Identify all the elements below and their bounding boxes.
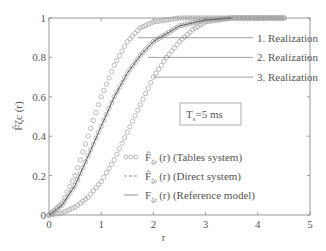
data-marker-circle bbox=[99, 95, 103, 99]
data-marker-circle bbox=[138, 102, 142, 106]
data-marker-circle bbox=[115, 152, 119, 156]
data-marker-circle bbox=[94, 110, 98, 114]
data-marker-circle bbox=[96, 102, 100, 106]
legend-item: Fζc(r) (Reference model) bbox=[124, 189, 255, 204]
data-marker-circle bbox=[68, 184, 72, 188]
x-tick-label: 1 bbox=[98, 218, 104, 230]
realization-label: 1. Realization bbox=[257, 32, 319, 44]
data-marker-circle bbox=[104, 171, 108, 175]
data-marker-circle bbox=[146, 86, 150, 90]
y-tick-label: 0.4 bbox=[32, 130, 46, 142]
data-marker-circle bbox=[107, 76, 111, 80]
data-marker-circle bbox=[143, 91, 147, 95]
data-marker-circle bbox=[141, 97, 145, 101]
y-tick-label: 0 bbox=[41, 209, 47, 221]
data-marker-circle bbox=[143, 23, 147, 27]
data-marker-circle bbox=[136, 28, 140, 32]
data-marker-circle bbox=[138, 26, 142, 30]
data-marker-circle bbox=[81, 150, 85, 154]
data-marker-circle bbox=[107, 166, 111, 170]
data-marker-circle bbox=[112, 158, 116, 162]
x-tick-label: 4 bbox=[255, 218, 261, 230]
data-marker-circle bbox=[120, 49, 124, 53]
data-marker-circle bbox=[104, 82, 108, 86]
data-marker-circle bbox=[70, 206, 74, 210]
y-tick-label: 0.6 bbox=[32, 91, 46, 103]
data-marker-circle bbox=[162, 59, 166, 63]
data-marker-circle bbox=[109, 162, 113, 166]
data-marker-circle bbox=[83, 142, 87, 146]
series-circles bbox=[47, 16, 286, 217]
data-marker-circle bbox=[120, 141, 124, 145]
data-marker-circle bbox=[102, 88, 106, 92]
data-marker-circle bbox=[117, 147, 121, 151]
plot-area-frame bbox=[49, 18, 310, 215]
data-marker-circle bbox=[125, 130, 129, 134]
data-marker-circle bbox=[154, 71, 158, 75]
series-circles bbox=[47, 16, 286, 217]
data-marker-circle bbox=[89, 126, 93, 130]
data-marker-circle bbox=[133, 31, 137, 35]
y-tick-label: 1 bbox=[41, 12, 47, 24]
series-circles bbox=[47, 16, 286, 217]
legend-circle-marker bbox=[124, 155, 128, 159]
y-tick-label: 0.2 bbox=[32, 170, 46, 182]
data-marker-circle bbox=[128, 37, 132, 41]
legend-label: Fζc(r) (Reference model) bbox=[145, 189, 255, 204]
data-marker-circle bbox=[130, 119, 134, 123]
data-marker-circle bbox=[122, 136, 126, 140]
data-marker-circle bbox=[136, 108, 140, 112]
data-marker-circle bbox=[122, 44, 126, 48]
data-marker-circle bbox=[65, 208, 69, 212]
data-marker-circle bbox=[112, 63, 116, 67]
data-marker-circle bbox=[188, 30, 192, 34]
data-marker-circle bbox=[109, 69, 113, 73]
legend-circle-marker bbox=[134, 155, 138, 159]
data-marker-circle bbox=[102, 175, 106, 179]
data-marker-circle bbox=[86, 134, 90, 138]
data-marker-circle bbox=[117, 54, 121, 58]
data-marker-circle bbox=[156, 67, 160, 71]
x-axis-label: r bbox=[162, 231, 166, 243]
data-marker-circle bbox=[149, 80, 153, 84]
y-axis-label: F̂ζc (r) bbox=[12, 101, 25, 131]
data-marker-circle bbox=[183, 35, 187, 39]
data-marker-circle bbox=[115, 58, 119, 62]
legend-label: F̂ζc(r) (Direct system) bbox=[145, 170, 241, 185]
data-marker-circle bbox=[133, 114, 137, 118]
data-marker-circle bbox=[159, 63, 163, 67]
data-marker-circle bbox=[146, 22, 150, 26]
x-tick-label: 3 bbox=[203, 218, 209, 230]
data-marker-circle bbox=[128, 125, 132, 129]
data-marker-circle bbox=[73, 173, 77, 177]
cdf-chart: 01234500.20.40.60.81rF̂ζc (r)1. Realizat… bbox=[0, 0, 326, 251]
data-marker-circle bbox=[65, 190, 69, 194]
realization-label: 3. Realization bbox=[257, 71, 319, 83]
y-tick-label: 0.8 bbox=[32, 51, 46, 63]
data-marker-circle bbox=[177, 39, 181, 43]
data-marker-circle bbox=[185, 32, 189, 36]
legend-circle-marker bbox=[129, 155, 133, 159]
legend-item: F̂ζc(r) (Tables system) bbox=[124, 151, 242, 166]
data-marker-circle bbox=[125, 39, 129, 43]
data-marker-circle bbox=[68, 207, 72, 211]
data-marker-circle bbox=[130, 34, 134, 38]
data-marker-circle bbox=[78, 158, 82, 162]
x-tick-label: 2 bbox=[151, 218, 157, 230]
legend-item: F̂ζc(r) (Direct system) bbox=[124, 170, 241, 185]
data-marker-circle bbox=[70, 179, 74, 183]
data-marker-circle bbox=[76, 166, 80, 170]
data-marker-circle bbox=[62, 210, 66, 214]
x-tick-label: 0 bbox=[46, 218, 52, 230]
data-marker-circle bbox=[91, 118, 95, 122]
data-marker-circle bbox=[141, 24, 145, 28]
data-marker-circle bbox=[149, 21, 153, 25]
data-marker-circle bbox=[99, 179, 103, 183]
x-tick-label: 5 bbox=[307, 218, 313, 230]
realization-label: 2. Realization bbox=[257, 51, 319, 63]
legend-label: F̂ζc(r) (Tables system) bbox=[145, 151, 242, 166]
